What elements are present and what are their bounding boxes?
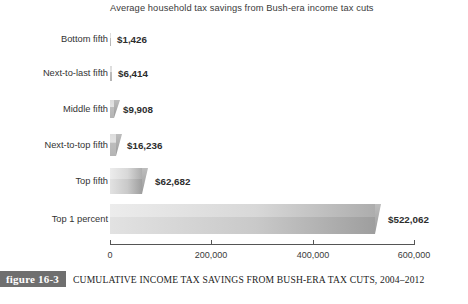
category-label: Bottom fifth: [61, 34, 108, 44]
x-axis-tick-label: 200,000: [195, 250, 228, 260]
category-label: Top 1 percent: [52, 214, 108, 224]
chart-row: Top fifth $62,682: [0, 164, 468, 198]
value-label: $522,062: [388, 214, 429, 225]
chart-row: Bottom fifth $1,426: [0, 22, 468, 56]
value-label: $62,682: [155, 176, 190, 187]
chart-row: Top 1 percent $522,062: [0, 202, 468, 236]
chart-plot-area: Bottom fifth $1,426 Next-to-last fifth $…: [0, 22, 468, 244]
chart-title: Average household tax savings from Bush-…: [110, 3, 450, 13]
bar: [110, 204, 375, 234]
bar: [110, 134, 116, 156]
x-axis-tick-label: 600,000: [398, 250, 431, 260]
bar-wrapper: $9,908: [110, 92, 114, 126]
bar-wrapper: $16,236: [110, 128, 116, 162]
x-axis-tick: [313, 240, 314, 245]
category-label: Middle fifth: [63, 104, 108, 114]
bar-end-cap: [142, 168, 148, 194]
x-axis-tick: [414, 240, 415, 245]
category-label: Next-to-top fifth: [44, 140, 108, 150]
x-axis-tick-label: 400,000: [297, 250, 330, 260]
chart-row: Middle fifth $9,908: [0, 92, 468, 126]
bar: [110, 66, 112, 81]
bar-wrapper: $1,426: [110, 22, 111, 56]
value-label: $9,908: [123, 104, 153, 115]
chart-row: Next-to-last fifth $6,414: [0, 56, 468, 90]
bar-wrapper: $522,062: [110, 202, 375, 236]
bar: [110, 100, 114, 118]
category-label: Next-to-last fifth: [43, 68, 108, 78]
bar-wrapper: $6,414: [110, 56, 112, 90]
figure-caption-title: CUMULATIVE INCOME TAX SAVINGS FROM BUSH-…: [73, 274, 424, 285]
bar-wrapper: $62,682: [110, 164, 142, 198]
value-label: $6,414: [118, 68, 148, 79]
category-label: Top fifth: [75, 176, 108, 186]
x-axis-tick: [211, 240, 212, 245]
figure-number-badge: figure 16-3: [0, 271, 66, 287]
x-axis-tick: [110, 240, 111, 245]
figure-caption: figure 16-3 CUMULATIVE INCOME TAX SAVING…: [0, 271, 468, 287]
x-axis: 0 200,000 400,000 600,000: [110, 244, 415, 245]
bar-end-cap: [375, 204, 381, 234]
bar: [110, 168, 142, 194]
value-label: $16,236: [127, 140, 162, 151]
figure-container: Average household tax savings from Bush-…: [0, 0, 468, 304]
chart-row: Next-to-top fifth $16,236: [0, 128, 468, 162]
bar: [110, 33, 111, 46]
value-label: $1,426: [117, 34, 147, 45]
bar-end-cap: [116, 134, 122, 156]
x-axis-tick-label: 0: [107, 250, 112, 260]
bar-end-cap: [114, 100, 120, 118]
